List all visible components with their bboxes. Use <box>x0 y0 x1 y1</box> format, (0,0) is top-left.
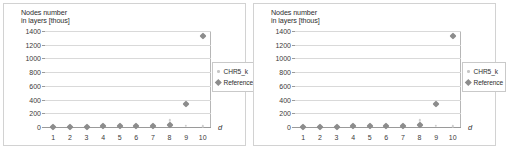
y-axis-tick-label: 1200 <box>275 41 291 48</box>
y-axis-tick-mark <box>42 45 45 46</box>
y-axis-tick-mark <box>292 86 295 87</box>
y-axis-tick-mark <box>292 45 295 46</box>
x-axis-tick-label: 7 <box>401 134 405 141</box>
legend-item-chr5k: CHR5_k <box>466 66 503 77</box>
page-title: Nodes number in layers [thous] <box>271 9 320 26</box>
y-axis-tick-label: 400 <box>279 96 291 103</box>
y-axis-tick-label: 200 <box>29 110 41 117</box>
x-axis-tick-label: 4 <box>351 134 355 141</box>
x-axis-tick-label: 6 <box>134 134 138 141</box>
gridline <box>295 31 461 32</box>
x-axis-label: d <box>218 123 222 132</box>
y-axis-tick-mark <box>292 31 295 32</box>
legend-item-chr5k: CHR5_k <box>216 66 253 77</box>
y-axis-tick-mark <box>42 31 45 32</box>
gridline <box>295 45 461 46</box>
legend-item-reference: Reference <box>216 77 253 88</box>
x-axis-tick-label: 8 <box>418 134 422 141</box>
y-axis-tick-label: 1400 <box>275 28 291 35</box>
x-axis-tick-label: 5 <box>368 134 372 141</box>
y-axis-tick-label: 600 <box>279 82 291 89</box>
legend-label: Reference <box>224 79 254 86</box>
y-axis-tick-label: 1400 <box>25 28 41 35</box>
legend-label: CHR5_k <box>224 68 248 75</box>
plot-area-right: 0200400600800100012001400 12345678910 d <box>295 31 461 127</box>
y-axis-tick-mark <box>292 127 295 128</box>
y-axis-tick-label: 800 <box>279 69 291 76</box>
gridline <box>45 58 211 59</box>
y-axis-tick-label: 1000 <box>25 55 41 62</box>
y-axis-tick-mark <box>292 100 295 101</box>
legend-right: CHR5_k Reference <box>462 62 506 92</box>
y-axis-tick-label: 400 <box>29 96 41 103</box>
y-axis-tick-label: 1000 <box>275 55 291 62</box>
x-axis-tick-label: 1 <box>301 134 305 141</box>
x-axis-tick-label: 5 <box>118 134 122 141</box>
legend-left: CHR5_k Reference <box>212 62 256 92</box>
right-chart: Nodes number in layers [thous] 020040060… <box>253 3 496 146</box>
y-axis-tick-label: 1200 <box>25 41 41 48</box>
y-axis-tick-label: 800 <box>29 69 41 76</box>
x-axis-tick-label: 3 <box>85 134 89 141</box>
x-axis-tick-label: 4 <box>101 134 105 141</box>
plot-area-left: 0200400600800100012001400 12345678910 d <box>45 31 211 127</box>
data-point <box>366 123 373 130</box>
y-axis-tick-mark <box>292 72 295 73</box>
x-axis-tick-label: 8 <box>168 134 172 141</box>
figure-sheet: Nodes number in layers [thous] 020040060… <box>0 0 509 154</box>
legend-label: CHR5_k <box>474 68 498 75</box>
legend-marker-diamond-icon <box>215 79 221 85</box>
legend-marker-dot-icon <box>217 70 220 73</box>
gridline <box>295 72 461 73</box>
y-axis-tick-mark <box>42 113 45 114</box>
data-point <box>116 123 123 130</box>
y-axis-tick-label: 600 <box>29 82 41 89</box>
legend-item-reference: Reference <box>466 77 503 88</box>
x-axis-tick-label: 2 <box>318 134 322 141</box>
x-axis-tick-label: 10 <box>199 134 207 141</box>
x-axis-tick-label: 1 <box>51 134 55 141</box>
gridline <box>45 31 211 32</box>
x-axis-tick-label: 10 <box>449 134 457 141</box>
y-axis-tick-mark <box>42 100 45 101</box>
y-axis-tick-mark <box>292 58 295 59</box>
x-axis-tick-label: 7 <box>151 134 155 141</box>
gridline <box>295 113 461 114</box>
gridline <box>45 86 211 87</box>
x-axis-tick-label: 9 <box>434 134 438 141</box>
y-axis-tick-mark <box>42 58 45 59</box>
legend-marker-dot-icon <box>467 70 470 73</box>
x-axis-tick-label: 3 <box>335 134 339 141</box>
y-axis-tick-label: 0 <box>287 124 291 131</box>
gridline <box>295 58 461 59</box>
y-axis-tick-label: 200 <box>279 110 291 117</box>
y-axis-tick-mark <box>42 72 45 73</box>
page-title: Nodes number in layers [thous] <box>21 9 70 26</box>
y-axis-tick-mark <box>292 113 295 114</box>
x-axis-tick-label: 9 <box>184 134 188 141</box>
y-axis-tick-mark <box>42 127 45 128</box>
x-axis-tick-label: 2 <box>68 134 72 141</box>
y-axis-tick-mark <box>42 86 45 87</box>
y-axis-tick-label: 0 <box>37 124 41 131</box>
legend-label: Reference <box>474 79 504 86</box>
x-axis-label: d <box>468 123 472 132</box>
left-chart: Nodes number in layers [thous] 020040060… <box>3 3 246 146</box>
gridline <box>45 45 211 46</box>
legend-marker-diamond-icon <box>465 79 471 85</box>
gridline <box>45 72 211 73</box>
gridline <box>45 113 211 114</box>
gridline <box>295 86 461 87</box>
x-axis-tick-label: 6 <box>384 134 388 141</box>
